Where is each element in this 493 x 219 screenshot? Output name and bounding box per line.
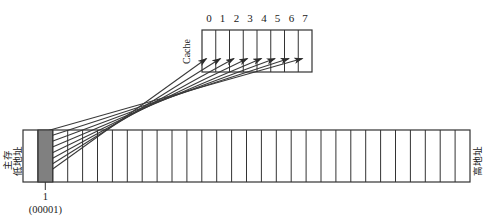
mapping-arrow-group bbox=[40, 59, 303, 179]
cache-mapping-diagram: 0 1 2 3 4 5 6 7 Cache bbox=[0, 0, 493, 219]
mapping-arrow-7 bbox=[40, 59, 303, 134]
cache-cell-label-3: 3 bbox=[247, 12, 253, 24]
cache-label: Cache bbox=[181, 38, 192, 64]
cache-cell-label-2: 2 bbox=[234, 12, 240, 24]
memory-low-address-label: 低地址 bbox=[12, 146, 23, 176]
cache-cell-label-1: 1 bbox=[220, 12, 226, 24]
address-decimal-label: 1 bbox=[43, 191, 48, 202]
memory-shaded-cell bbox=[38, 130, 53, 182]
mapping-arrow-6 bbox=[40, 59, 290, 140]
cache-cell-label-7: 7 bbox=[302, 12, 308, 24]
diagram-canvas: 0 1 2 3 4 5 6 7 Cache bbox=[0, 0, 493, 219]
cache-cell-dividers bbox=[216, 30, 299, 72]
memory-cell-dividers bbox=[38, 130, 455, 182]
cache-cell-label-5: 5 bbox=[275, 12, 281, 24]
cache-cell-label-4: 4 bbox=[261, 12, 267, 24]
memory-high-address-label: 高地址 bbox=[472, 146, 483, 176]
address-callout: 1 (00001) bbox=[29, 182, 63, 216]
address-binary-label: (00001) bbox=[29, 204, 63, 216]
cache-cell-label-0: 0 bbox=[206, 12, 212, 24]
cache-cell-label-6: 6 bbox=[289, 12, 295, 24]
